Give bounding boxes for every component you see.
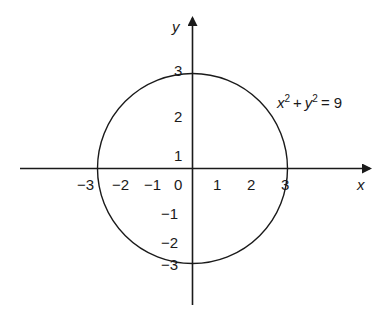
x-tick: 3: [281, 176, 289, 193]
y-tick: −3: [161, 256, 178, 273]
x-tick: −3: [77, 176, 94, 193]
y-tick: −2: [161, 234, 178, 251]
x-tick: −2: [112, 176, 129, 193]
x-tick: 0: [174, 176, 182, 193]
equation-label: x2+y2= 9: [276, 93, 342, 111]
circle-plot: y x −3 −2 −1 0 1 2 3 3 2 1 −1 −2 −3 x2+y…: [0, 0, 377, 318]
x-axis-label: x: [356, 176, 365, 193]
y-tick: 2: [174, 108, 182, 125]
y-tick: 3: [174, 62, 182, 79]
x-tick: 2: [247, 176, 255, 193]
y-axis-label: y: [171, 18, 181, 35]
x-tick: −1: [144, 176, 161, 193]
x-tick: 1: [213, 176, 221, 193]
y-tick: 1: [174, 147, 182, 164]
y-tick: −1: [161, 205, 178, 222]
chart: y x −3 −2 −1 0 1 2 3 3 2 1 −1 −2 −3 x2+y…: [0, 0, 377, 318]
